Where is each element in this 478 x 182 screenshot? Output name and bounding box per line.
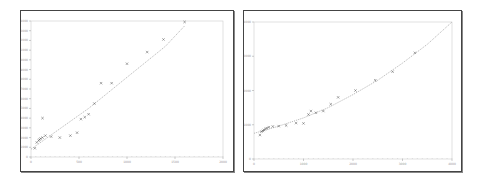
data-point-marker xyxy=(80,118,82,120)
data-point-marker xyxy=(44,134,46,136)
data-point-marker xyxy=(84,116,86,118)
y-tick-label: 1000 xyxy=(244,123,251,127)
left-chart-plot: 0100020003000400050006000700080009000100… xyxy=(21,11,233,171)
fit-line xyxy=(31,26,185,149)
data-point-marker xyxy=(259,134,261,136)
data-point-marker xyxy=(69,134,71,136)
y-tick-label: 13000 xyxy=(21,29,28,33)
y-tick-label: 2000 xyxy=(21,136,28,140)
data-point-marker xyxy=(100,82,102,84)
x-tick-label: 2000 xyxy=(219,160,227,164)
left-chart-frame: 0100020003000400050006000700080009000100… xyxy=(20,10,234,172)
data-point-marker xyxy=(110,82,112,84)
data-point-marker xyxy=(330,103,332,105)
y-tick-label: 7000 xyxy=(21,87,28,91)
data-point-marker xyxy=(354,89,356,91)
data-point-marker xyxy=(322,110,324,112)
x-tick-label: 4000 xyxy=(448,162,456,166)
fit-line xyxy=(254,22,452,133)
y-tick-label: 2000 xyxy=(244,89,251,93)
y-tick-label: 0 xyxy=(249,157,251,161)
x-tick-label: 500 xyxy=(76,160,82,164)
data-point-marker xyxy=(302,122,304,124)
plot-area xyxy=(31,21,223,157)
data-point-marker xyxy=(41,117,43,119)
plot-area xyxy=(254,22,452,159)
data-point-marker xyxy=(34,147,36,149)
y-tick-label: 1000 xyxy=(21,145,28,149)
data-point-marker xyxy=(310,110,312,112)
data-point-marker xyxy=(50,135,52,137)
data-point-marker xyxy=(391,70,393,72)
data-point-marker xyxy=(307,113,309,115)
y-tick-label: 10000 xyxy=(21,58,28,62)
data-point-marker xyxy=(76,132,78,134)
y-tick-label: 11000 xyxy=(21,48,28,52)
data-point-marker xyxy=(87,113,89,115)
y-tick-label: 9000 xyxy=(21,68,28,72)
right-chart-frame: 0100020003000400001000200030004000 xyxy=(243,10,462,172)
x-tick-label: 1000 xyxy=(300,162,308,166)
data-point-marker xyxy=(162,38,164,40)
data-point-marker xyxy=(337,96,339,98)
data-point-marker xyxy=(374,79,376,81)
y-tick-label: 14000 xyxy=(21,19,28,23)
right-chart-plot: 0100020003000400001000200030004000 xyxy=(244,11,461,171)
x-tick-label: 1000 xyxy=(123,160,131,164)
data-point-marker xyxy=(59,136,61,138)
y-tick-label: 4000 xyxy=(244,20,251,24)
data-point-marker xyxy=(272,125,274,127)
data-point-marker xyxy=(93,102,95,104)
data-point-marker xyxy=(146,51,148,53)
y-tick-label: 6000 xyxy=(21,97,28,101)
x-tick-label: 3000 xyxy=(399,162,407,166)
x-tick-label: 0 xyxy=(30,160,32,164)
y-tick-label: 5000 xyxy=(21,106,28,110)
y-tick-label: 12000 xyxy=(21,38,28,42)
x-tick-label: 1500 xyxy=(171,160,179,164)
data-point-marker xyxy=(126,63,128,65)
y-tick-label: 0 xyxy=(26,155,28,159)
y-tick-label: 8000 xyxy=(21,77,28,81)
data-point-marker xyxy=(295,122,297,124)
y-tick-label: 4000 xyxy=(21,116,28,120)
y-tick-label: 3000 xyxy=(21,126,28,130)
x-tick-label: 0 xyxy=(253,162,255,166)
data-point-marker xyxy=(285,124,287,126)
x-tick-label: 2000 xyxy=(349,162,357,166)
y-tick-label: 3000 xyxy=(244,54,251,58)
